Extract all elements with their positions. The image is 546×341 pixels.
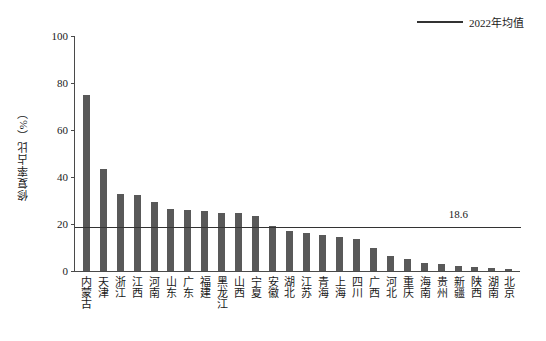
bar-slot — [78, 36, 95, 271]
plot-area: 020406080100 18.6 — [75, 36, 520, 271]
x-label-slot: 天津 — [94, 276, 111, 309]
legend-label: 2022年均值 — [469, 14, 524, 30]
bar — [404, 259, 411, 271]
bar-slot — [483, 36, 500, 271]
x-label-slot: 北京 — [500, 276, 517, 309]
x-tick-label: 江苏 — [300, 276, 312, 309]
chart-legend: 2022年均值 — [417, 14, 524, 30]
x-axis-labels: 内蒙古天津浙江江西河南山东广东福建黑龙江山西宁夏安徽湖北江苏青海上海四川广西河北… — [74, 276, 520, 309]
bar — [83, 95, 90, 271]
bar-slot — [129, 36, 146, 271]
x-label-slot: 重庆 — [399, 276, 416, 309]
x-label-slot: 黑龙江 — [212, 276, 229, 309]
x-tick-label: 内蒙古 — [80, 276, 92, 309]
bar-slot — [112, 36, 129, 271]
x-label-slot: 上海 — [331, 276, 348, 309]
bar-slot — [399, 36, 416, 271]
bar — [370, 248, 377, 271]
x-tick-label: 河南 — [147, 276, 159, 309]
bar-slot — [281, 36, 298, 271]
bar — [353, 239, 360, 271]
bar-slot — [382, 36, 399, 271]
bar — [117, 194, 124, 271]
bar-slot — [230, 36, 247, 271]
x-label-slot: 河南 — [145, 276, 162, 309]
bar — [167, 209, 174, 272]
bar — [421, 263, 428, 271]
bar — [235, 213, 242, 271]
x-label-slot: 湖南 — [483, 276, 500, 309]
bar — [505, 269, 512, 271]
bar — [134, 195, 141, 271]
x-label-slot: 宁夏 — [246, 276, 263, 309]
y-axis-title-text: 修复率占比（%） — [15, 107, 31, 201]
x-label-slot: 新疆 — [449, 276, 466, 309]
bar — [269, 226, 276, 271]
bar-slot — [95, 36, 112, 271]
x-label-slot: 广西 — [365, 276, 382, 309]
bar-slot — [196, 36, 213, 271]
x-label-slot: 青海 — [314, 276, 331, 309]
bar-slot — [146, 36, 163, 271]
bar-series — [75, 36, 520, 271]
x-tick-label: 安徽 — [266, 276, 278, 309]
bar-slot — [247, 36, 264, 271]
x-tick-label: 浙江 — [113, 276, 125, 309]
x-label-slot: 广东 — [179, 276, 196, 309]
bar-slot — [331, 36, 348, 271]
bar — [471, 267, 478, 271]
x-tick-label: 重庆 — [401, 276, 413, 309]
x-label-slot: 陕西 — [466, 276, 483, 309]
x-tick-label: 上海 — [333, 276, 345, 309]
bar — [184, 210, 191, 271]
bar — [336, 237, 343, 271]
bar-slot — [466, 36, 483, 271]
x-label-slot: 江苏 — [297, 276, 314, 309]
x-label-slot: 安徽 — [263, 276, 280, 309]
bar-slot — [213, 36, 230, 271]
bar-slot — [179, 36, 196, 271]
x-tick-label: 广东 — [181, 276, 193, 309]
bar-slot — [416, 36, 433, 271]
x-label-slot: 福建 — [195, 276, 212, 309]
x-tick-label: 四川 — [350, 276, 362, 309]
bar — [201, 211, 208, 271]
x-label-slot: 浙江 — [111, 276, 128, 309]
x-label-slot: 江西 — [128, 276, 145, 309]
legend-line-icon — [417, 21, 463, 23]
x-label-slot: 内蒙古 — [77, 276, 94, 309]
x-tick-label: 贵州 — [435, 276, 447, 309]
bar-slot — [433, 36, 450, 271]
x-tick-label: 山西 — [232, 276, 244, 309]
bar — [151, 202, 158, 271]
x-tick-label: 黑龙江 — [215, 276, 227, 309]
bar-slot — [365, 36, 382, 271]
bar-slot — [264, 36, 281, 271]
average-reference-line — [75, 227, 521, 228]
x-label-slot: 河北 — [382, 276, 399, 309]
x-tick-label: 新疆 — [452, 276, 464, 309]
bar — [100, 169, 107, 271]
bar — [387, 256, 394, 271]
x-label-slot: 山西 — [229, 276, 246, 309]
x-tick-label: 河北 — [384, 276, 396, 309]
x-label-slot: 四川 — [348, 276, 365, 309]
bar-slot — [298, 36, 315, 271]
x-tick-label: 广西 — [367, 276, 379, 309]
x-tick-label: 湖北 — [283, 276, 295, 309]
x-tick-label: 海南 — [418, 276, 430, 309]
x-tick-label: 陕西 — [469, 276, 481, 309]
x-tick-label: 宁夏 — [249, 276, 261, 309]
plot-frame: 020406080100 18.6 — [74, 36, 520, 272]
x-label-slot: 贵州 — [432, 276, 449, 309]
bar — [455, 266, 462, 271]
bar-slot — [162, 36, 179, 271]
x-tick-label: 北京 — [503, 276, 515, 309]
y-axis-title: 修复率占比（%） — [14, 36, 32, 272]
chart-container: 2022年均值 修复率占比（%） 020406080100 18.6 内蒙古天津… — [0, 0, 546, 341]
x-tick-label: 江西 — [130, 276, 142, 309]
bar — [319, 235, 326, 271]
bar — [252, 216, 259, 271]
average-value-label: 18.6 — [449, 209, 468, 220]
bar-slot — [500, 36, 517, 271]
